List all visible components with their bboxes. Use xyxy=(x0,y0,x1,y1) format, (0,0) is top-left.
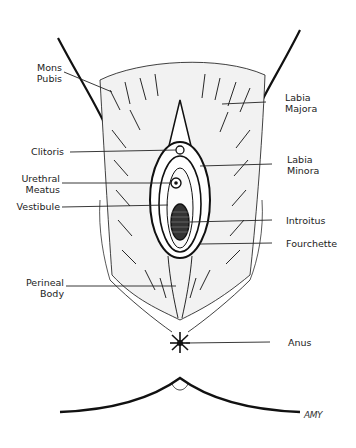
artist-signature: AMY xyxy=(304,410,322,420)
clitoris xyxy=(176,146,184,154)
label-labia-minora: Labia Minora xyxy=(287,154,319,176)
label-introitus: Introitus xyxy=(286,215,325,226)
label-clitoris: Clitoris xyxy=(14,146,64,157)
label-anus: Anus xyxy=(288,337,312,348)
label-urethral-meatus: Urethral Meatus xyxy=(14,173,60,195)
buttocks-contour xyxy=(60,378,300,412)
label-labia-majora: Labia Majora xyxy=(285,92,317,114)
label-perineal-body: Perineal Body xyxy=(14,277,64,299)
label-vestibule: Vestibule xyxy=(4,201,60,212)
label-fourchette: Fourchette xyxy=(286,238,337,249)
label-mons-pubis: Mons Pubis xyxy=(20,62,62,84)
